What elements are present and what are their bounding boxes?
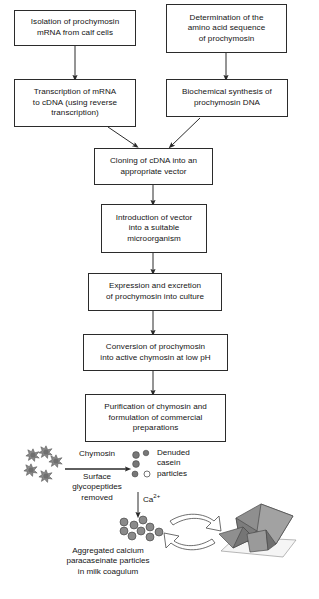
flow-box-biochemical-synthesis: Biochemical synthesis of prochymosin DNA [166,79,288,117]
flow-box-determination-label: Determination of the amino acid sequence… [170,13,283,45]
cheese-illustration [219,504,296,557]
aggregated-paracaseinate-cluster [120,516,163,541]
flow-box-expression: Expression and excretion of prochymosin … [88,273,222,311]
flow-box-purification: Purification of chymosin and formulation… [85,394,226,442]
flow-box-isolation: Isolation of prochymosin mRNA from calf … [14,10,136,46]
flow-box-conversion: Conversion of prochymosin into active ch… [83,334,228,371]
flow-box-conversion-label: Conversion of prochymosin into active ch… [87,342,224,363]
flow-box-introduction: Introduction of vector into a suitable m… [101,204,207,253]
flow-box-transcription-label: Transcription of mRNA to cDNA (using rev… [18,87,132,119]
calcium-ion-charge: 2+ [153,493,160,499]
flowchart-diagram: Isolation of prochymosin mRNA from calf … [0,0,319,599]
coagulum-caption: Aggregated calcium paracaseinate particl… [18,546,198,577]
flow-box-purification-label: Purification of chymosin and formulation… [89,402,222,434]
calcium-ion-symbol: Ca [143,495,153,504]
flow-box-expression-label: Expression and excretion of prochymosin … [92,281,218,302]
reaction-reagent-above: Chymosin [62,449,132,459]
denuded-casein-label: Denuded casein particles [157,448,235,479]
flow-box-determination: Determination of the amino acid sequence… [166,4,287,53]
flow-box-transcription: Transcription of mRNA to cDNA (using rev… [14,79,136,127]
flow-box-introduction-label: Introduction of vector into a suitable m… [105,213,203,245]
flow-box-cloning-label: Cloning of cDNA into an appropriate vect… [98,156,209,177]
reaction-reagent-below: Surface glycopeptides removed [52,472,142,503]
flow-box-isolation-label: Isolation of prochymosin mRNA from calf … [18,17,132,38]
flow-box-cloning: Cloning of cDNA into an appropriate vect… [94,148,213,185]
calcium-ion-label: Ca2+ [143,495,183,505]
cycle-arrows [164,514,221,550]
flow-box-biochemical-synthesis-label: Biochemical synthesis of prochymosin DNA [170,87,284,108]
